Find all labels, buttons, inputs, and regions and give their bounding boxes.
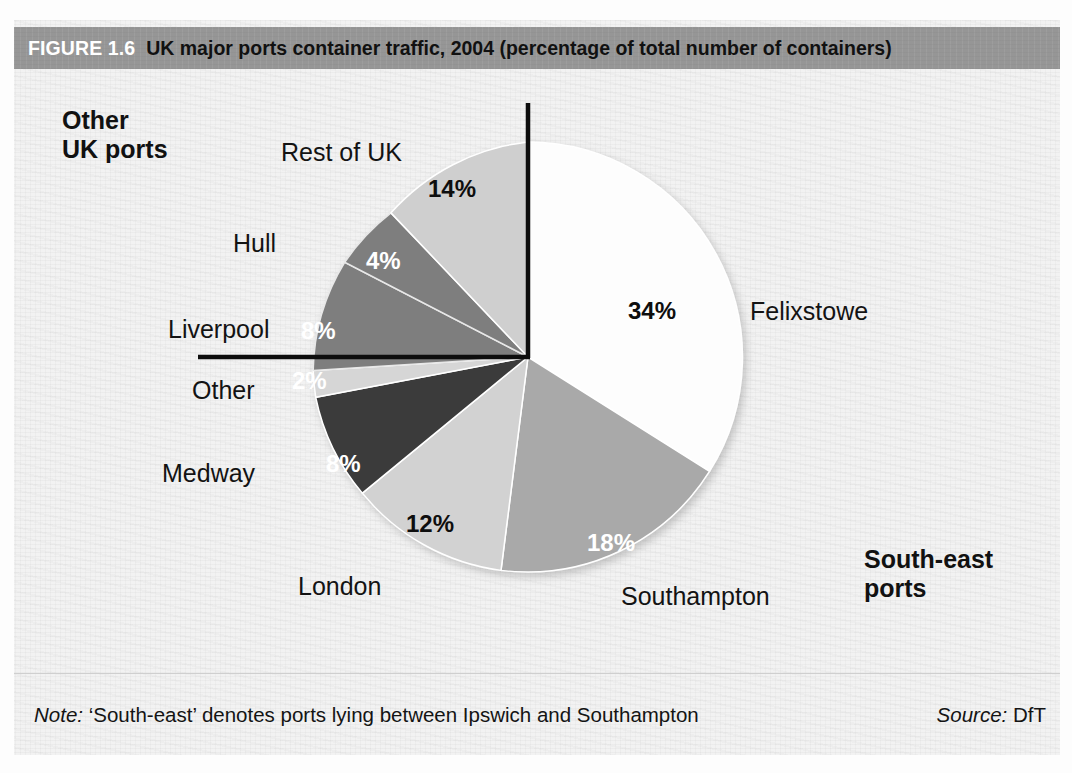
figure-header-bar: FIGURE 1.6 UK major ports container traf…: [14, 27, 1060, 69]
slice-label-liverpool: Liverpool: [168, 315, 269, 344]
slice-value-other: 2%: [292, 367, 327, 395]
slice-value-london: 12%: [406, 510, 454, 538]
slice-label-felixstowe: Felixstowe: [750, 297, 868, 326]
page-margin-right: [1060, 0, 1072, 773]
figure-footer: Note: ‘South-east’ denotes ports lying b…: [14, 674, 1060, 755]
note-label: Note:: [34, 703, 83, 726]
slice-label-london: London: [298, 572, 381, 601]
slice-value-medway: 8%: [326, 450, 361, 478]
figure-note: Note: ‘South-east’ denotes ports lying b…: [34, 703, 699, 727]
page-margin-left: [0, 0, 14, 773]
annotation-south-east-ports: South-east ports: [864, 545, 993, 603]
slice-value-hull: 4%: [366, 247, 401, 275]
figure-source: Source: DfT: [937, 703, 1046, 727]
slice-label-other: Other: [192, 376, 255, 405]
annotation-south-east-ports-line1: South-east: [864, 545, 993, 574]
chart-plot-area: Other UK ports South-east ports Rest of …: [14, 69, 1060, 673]
page-margin-top: [0, 0, 1072, 20]
figure-container: FIGURE 1.6 UK major ports container traf…: [0, 0, 1072, 773]
annotation-other-uk-ports-line2: UK ports: [62, 135, 168, 164]
slice-value-southampton: 18%: [587, 529, 635, 557]
slice-value-liverpool: 8%: [301, 317, 336, 345]
slice-value-rest-of-uk: 14%: [428, 175, 476, 203]
slice-value-felixstowe: 34%: [628, 297, 676, 325]
annotation-other-uk-ports-line1: Other: [62, 106, 168, 135]
annotation-other-uk-ports: Other UK ports: [62, 106, 168, 164]
figure-number-label: FIGURE 1.6: [28, 37, 135, 60]
note-text: ‘South-east’ denotes ports lying between…: [89, 703, 699, 726]
figure-title: UK major ports container traffic, 2004 (…: [146, 37, 891, 60]
slice-label-southampton: Southampton: [621, 582, 770, 611]
slice-label-hull: Hull: [233, 229, 276, 258]
source-label: Source:: [937, 703, 1008, 726]
source-text: DfT: [1013, 703, 1046, 726]
slice-label-rest-of-uk: Rest of UK: [281, 138, 402, 167]
annotation-south-east-ports-line2: ports: [864, 574, 993, 603]
page-margin-bottom: [0, 755, 1072, 773]
slice-label-medway: Medway: [162, 459, 255, 488]
